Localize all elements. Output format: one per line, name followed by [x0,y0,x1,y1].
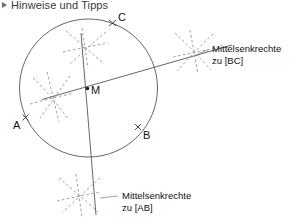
point-label-b: B [143,130,150,141]
point-c-tick [109,20,116,26]
compass-arcs-right [173,30,217,74]
point-label-c: C [118,12,126,23]
center-point-m [86,87,90,91]
point-b-tick [135,124,141,130]
point-label-m: M [91,85,100,96]
point-label-a: A [13,120,20,131]
perpendicular-bisector-ab-line [81,33,96,215]
annotation-perpendicular-bisector-ab: Mittelsenkrechte zu [AB] [122,190,191,213]
perpendicular-bisector-bc-line [42,45,232,100]
screenshot-root: Hinweise und Tipps [0,0,301,224]
annotation-perpendicular-bisector-bc: Mittelsenkrechte zu [BC] [212,43,281,66]
annotation-ab-line2: zu [AB] [122,202,191,214]
annotation-ab-line1: Mittelsenkrechte [122,190,191,202]
annotation-bc-line2: zu [BC] [212,55,281,67]
leader-line-ab [100,196,118,198]
annotation-bc-line1: Mittelsenkrechte [212,43,281,55]
compass-arcs-upper-middle [63,28,108,68]
